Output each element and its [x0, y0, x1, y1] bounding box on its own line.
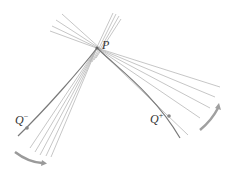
label-p: P: [102, 38, 109, 53]
label-q-minus: Q−: [15, 112, 28, 128]
arrow-right: [200, 108, 218, 130]
tangent-line-family: [30, 13, 220, 157]
arrow-bottom-left: [15, 152, 42, 163]
point-q-plus: [167, 114, 171, 118]
label-q-plus: Q+: [150, 111, 163, 127]
arrowhead-bottom-left-icon: [41, 160, 47, 166]
diagram-canvas: P Q− Q+: [0, 0, 239, 177]
point-p: [95, 46, 98, 49]
arrowhead-right-icon: [215, 103, 221, 110]
diagram-svg: [0, 0, 239, 177]
